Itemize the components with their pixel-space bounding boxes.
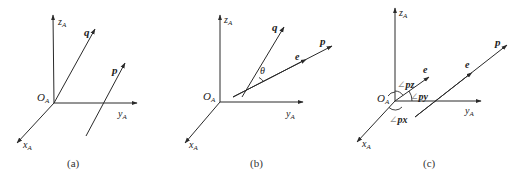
- y-axis-label-b: yA: [285, 108, 295, 121]
- panel-c: zA yA xA OA p e e ∠pz ∠py ∠px (c): [357, 7, 507, 170]
- z-axis-a: [53, 15, 54, 103]
- vector-p-label-c: p: [494, 36, 501, 48]
- caption-c: (c): [423, 157, 436, 170]
- caption-a: (a): [67, 157, 80, 170]
- caption-b: (b): [250, 157, 263, 170]
- x-axis-label-c: xA: [361, 138, 371, 151]
- unit-vector-e-b: [233, 61, 304, 98]
- angle-theta-arc: [259, 78, 264, 83]
- vector-q-a: [54, 29, 95, 103]
- vector-q-label-a: q: [84, 26, 90, 38]
- angle-pz-arc-2: [388, 92, 395, 96]
- x-axis-b: [185, 102, 220, 143]
- panel-b: zA yA xA OA q p e θ (b): [185, 14, 332, 170]
- angle-px-arc: [389, 107, 402, 110]
- y-axis-label-c: yA: [464, 105, 474, 118]
- origin-label-c: OA: [377, 92, 390, 106]
- origin-label-a: OA: [37, 91, 50, 105]
- vector-p-label-b: p: [319, 35, 326, 47]
- angle-px-label: ∠px: [389, 114, 407, 125]
- panel-a: zA yA xA OA q p (a): [17, 15, 137, 170]
- vector-diagram: zA yA xA OA q p (a) zA yA xA OA q p e θ …: [0, 0, 522, 179]
- vector-p-a: [86, 63, 125, 136]
- vector-e-label-on-p-c: e: [465, 59, 470, 70]
- vector-e-label-b: e: [295, 51, 300, 62]
- x-axis-label-a: xA: [22, 139, 32, 152]
- origin-label-b: OA: [203, 90, 216, 104]
- z-axis-label-a: zA: [57, 16, 67, 29]
- y-axis-label-a: yA: [117, 108, 127, 121]
- vector-e-label-origin-c: e: [423, 64, 428, 75]
- vector-q-b: [242, 27, 284, 97]
- vector-p-label-a: p: [111, 64, 118, 76]
- x-axis-label-b: xA: [188, 139, 198, 152]
- angle-pz-label: ∠pz: [397, 79, 414, 90]
- z-axis-label-b: zA: [223, 14, 233, 27]
- z-axis-label-c: zA: [398, 7, 408, 20]
- angle-py-label: ∠py: [410, 91, 428, 102]
- x-axis-a: [17, 103, 54, 143]
- angle-theta-label: θ: [260, 65, 265, 76]
- angle-pz-arc: [395, 91, 403, 95]
- vector-q-label-b: q: [272, 21, 278, 33]
